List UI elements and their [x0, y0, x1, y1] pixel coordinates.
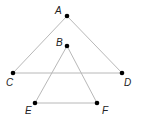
- point-f: [95, 101, 100, 106]
- segment-bf: [67, 46, 97, 103]
- segment-be: [35, 46, 67, 103]
- points: [11, 14, 125, 106]
- point-b: [65, 44, 70, 49]
- point-a: [65, 14, 70, 19]
- point-e: [33, 101, 38, 106]
- point-c: [11, 71, 16, 76]
- geometry-diagram: A B C D E F: [0, 0, 141, 121]
- label-f: F: [102, 105, 109, 116]
- label-b: B: [56, 37, 63, 48]
- label-d: D: [124, 77, 131, 88]
- label-e: E: [25, 105, 32, 116]
- label-c: C: [6, 77, 14, 88]
- segments: [13, 16, 122, 103]
- label-a: A: [54, 5, 62, 16]
- segment-ad: [67, 16, 122, 73]
- point-d: [120, 71, 125, 76]
